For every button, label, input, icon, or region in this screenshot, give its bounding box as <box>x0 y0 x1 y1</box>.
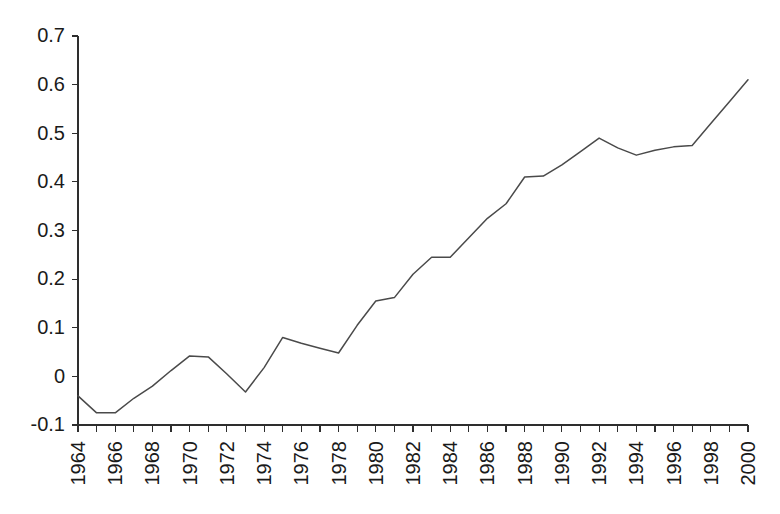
x-axis <box>78 425 748 432</box>
x-tick-label: 1992 <box>588 441 610 486</box>
x-tick-label: 1988 <box>514 441 536 486</box>
x-tick-label: 1972 <box>216 441 238 486</box>
y-tick-label: 0.7 <box>37 24 65 46</box>
x-tick-labels: 1964196619681970197219741976197819801982… <box>67 441 759 486</box>
x-tick-label: 1994 <box>625 441 647 486</box>
x-tick-label: 1996 <box>663 441 685 486</box>
y-axis <box>72 36 78 425</box>
y-tick-label: 0.3 <box>37 219 65 241</box>
y-tick-label: -0.1 <box>31 413 65 435</box>
x-tick-label: 1990 <box>551 441 573 486</box>
y-tick-label: 0.2 <box>37 267 65 289</box>
x-tick-label: 1980 <box>365 441 387 486</box>
x-tick-label: 1964 <box>67 441 89 486</box>
line-chart: 1964196619681970197219741976197819801982… <box>0 0 780 514</box>
data-series <box>78 80 748 413</box>
x-tick-label: 1982 <box>402 441 424 486</box>
x-tick-label: 1998 <box>700 441 722 486</box>
y-tick-label: 0.1 <box>37 316 65 338</box>
y-tick-labels: 0.70.60.50.40.30.20.10-0.1 <box>31 24 65 435</box>
x-tick-label: 1976 <box>290 441 312 486</box>
y-tick-label: 0.5 <box>37 122 65 144</box>
chart-plot-area: 1964196619681970197219741976197819801982… <box>0 0 780 514</box>
x-tick-label: 1970 <box>179 441 201 486</box>
series-line <box>78 80 748 413</box>
x-tick-label: 1968 <box>141 441 163 486</box>
y-tick-label: 0.6 <box>37 73 65 95</box>
x-tick-label: 1986 <box>476 441 498 486</box>
y-tick-label: 0 <box>54 365 65 387</box>
x-tick-label: 1966 <box>104 441 126 486</box>
x-tick-label: 2000 <box>737 441 759 486</box>
y-tick-label: 0.4 <box>37 170 65 192</box>
x-tick-label: 1974 <box>253 441 275 486</box>
x-tick-label: 1984 <box>439 441 461 486</box>
x-tick-label: 1978 <box>328 441 350 486</box>
